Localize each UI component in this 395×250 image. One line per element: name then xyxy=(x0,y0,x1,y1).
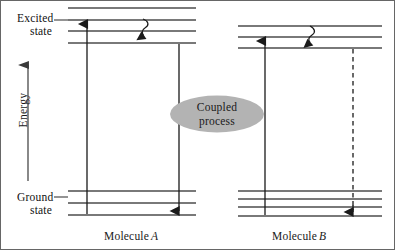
energy-level-diagram: Excited state Ground state Energy Couple… xyxy=(0,0,395,250)
molecule-b-symbol: B xyxy=(317,230,326,242)
ground-state-label: Ground state xyxy=(17,191,65,217)
molecule-a-name: Molecule xyxy=(104,230,149,242)
molecule-a-relaxation-arrow xyxy=(142,19,148,36)
molecule-b-label: MoleculeB xyxy=(272,230,326,242)
ground-state-label-line1: Ground xyxy=(17,191,53,203)
ground-state-label-line2: state xyxy=(17,204,65,217)
coupled-process-label-line1: Coupled xyxy=(186,100,248,114)
coupled-process-label: Coupled process xyxy=(186,100,248,128)
molecule-a-label: MoleculeA xyxy=(104,230,158,242)
molecule-a-symbol: A xyxy=(149,230,158,242)
energy-axis-label: Energy xyxy=(17,80,29,140)
excited-state-label-line2: state xyxy=(17,25,65,38)
molecule-b-ground-levels xyxy=(238,191,382,216)
coupled-process-label-line2: process xyxy=(186,114,248,128)
molecule-b-relaxation-arrow xyxy=(309,26,315,43)
excited-state-label-line1: Excited xyxy=(17,12,54,24)
excited-state-label: Excited state xyxy=(17,12,65,38)
molecule-b-name: Molecule xyxy=(272,230,317,242)
